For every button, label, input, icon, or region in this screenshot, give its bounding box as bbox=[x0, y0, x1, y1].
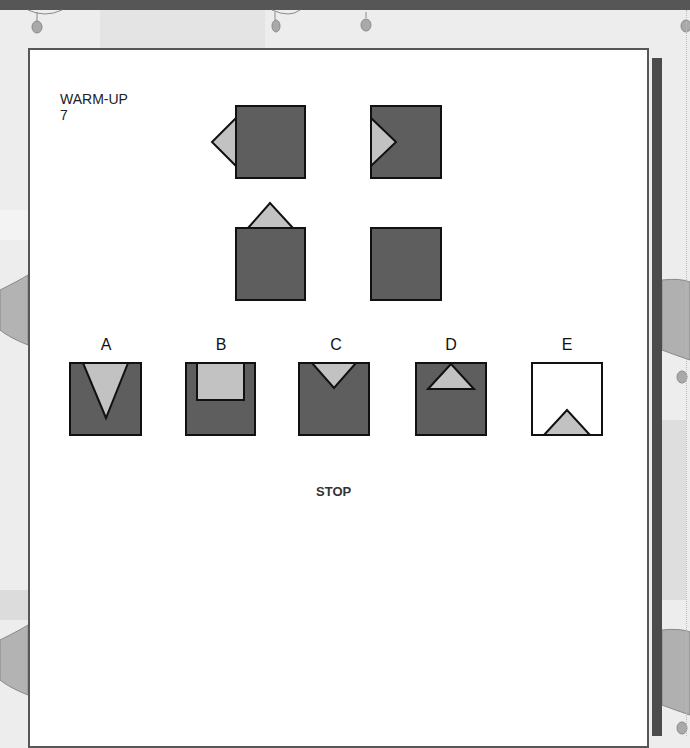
option-e-figure[interactable] bbox=[532, 363, 602, 435]
option-a-label[interactable]: A bbox=[91, 336, 121, 354]
matrix-cell-top-left bbox=[212, 106, 305, 178]
option-d-label[interactable]: D bbox=[436, 336, 466, 354]
option-b-figure[interactable] bbox=[186, 363, 255, 435]
option-c-figure[interactable] bbox=[299, 363, 369, 435]
option-c-label[interactable]: C bbox=[321, 336, 351, 354]
matrix-cell-top-right bbox=[371, 106, 441, 178]
matrix-cell-bottom-right bbox=[371, 228, 441, 300]
option-e-label[interactable]: E bbox=[552, 336, 582, 354]
stop-label: STOP bbox=[316, 484, 351, 499]
matrix-cell-bottom-left bbox=[236, 203, 305, 300]
option-d-figure[interactable] bbox=[416, 363, 486, 435]
option-a-figure[interactable] bbox=[70, 363, 141, 435]
option-b-label[interactable]: B bbox=[206, 336, 236, 354]
